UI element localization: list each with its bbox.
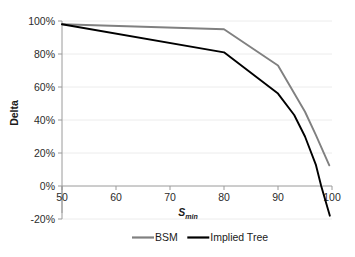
y-tick-label: 20% (34, 147, 55, 159)
y-tick-label: 80% (34, 48, 55, 60)
x-tick-label: 90 (272, 191, 284, 203)
x-tick-label: 50 (56, 191, 68, 203)
y-tick-label: 40% (34, 114, 55, 126)
x-axis-title: Smin (178, 206, 197, 220)
x-axis-ticks: 5060708090100 (56, 186, 341, 203)
legend: BSMImplied Tree (132, 231, 268, 243)
x-axis-title-subscript: min (185, 213, 197, 220)
x-tick-label: 70 (164, 191, 176, 203)
x-tick-label: 80 (218, 191, 230, 203)
legend-label-bsm: BSM (155, 231, 178, 243)
x-tick-label: 60 (110, 191, 122, 203)
chart-canvas: -20%0%20%40%60%80%100% 5060708090100 Del… (0, 0, 355, 257)
delta-comparison-chart: -20%0%20%40%60%80%100% 5060708090100 Del… (0, 0, 355, 257)
y-tick-label: 0% (40, 180, 55, 192)
y-tick-label: 60% (34, 81, 55, 93)
series-line-bsm (62, 24, 329, 165)
x-axis-title-base: S (178, 206, 185, 218)
gridlines-group (62, 21, 332, 219)
y-axis-title: Delta (8, 100, 20, 126)
y-tick-label: 100% (28, 15, 55, 27)
y-tick-label: -20% (30, 213, 55, 225)
legend-label-implied-tree: Implied Tree (210, 231, 268, 243)
